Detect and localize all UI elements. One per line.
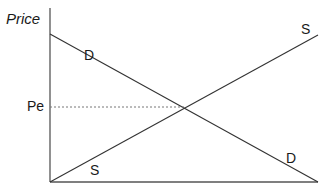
demand-label-bottom: D [286, 151, 296, 165]
supply-demand-diagram [0, 0, 335, 195]
supply-label-bottom: S [90, 163, 99, 177]
y-axis-label: Price [6, 11, 40, 26]
supply-label-top: S [301, 22, 310, 36]
demand-label-top: D [84, 48, 94, 62]
equilibrium-price-label: Pe [27, 99, 44, 113]
